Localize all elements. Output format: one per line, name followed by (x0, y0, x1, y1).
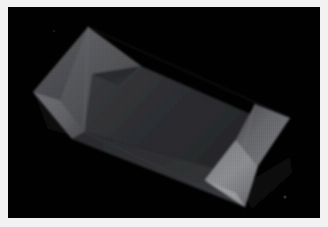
photograph-scene (8, 7, 320, 218)
dust-speck (283, 195, 286, 198)
photo-frame: Dark folded sheet photographed against a… (0, 0, 328, 227)
photo-canvas: Dark folded sheet photographed against a… (8, 7, 320, 218)
dust-speck (53, 30, 55, 32)
